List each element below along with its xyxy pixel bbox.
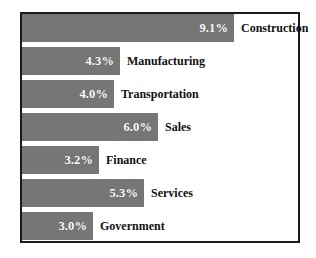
- bar-sales: 6.0%: [22, 113, 158, 141]
- bar-value-label: 3.0%: [58, 220, 87, 233]
- bar-row: 6.0%Sales: [22, 113, 191, 141]
- bar-value-label: 9.1%: [199, 22, 228, 35]
- bar-category-label: Transportation: [114, 88, 199, 100]
- chart-plot-area: 9.1%Construction4.3%Manufacturing4.0%Tra…: [22, 14, 298, 241]
- bar-manufacturing: 4.3%: [22, 47, 120, 75]
- bar-services: 5.3%: [22, 179, 144, 207]
- bar-value-label: 4.3%: [85, 55, 114, 68]
- chart-frame-border: 9.1%Construction4.3%Manufacturing4.0%Tra…: [20, 12, 300, 243]
- bar-category-label: Manufacturing: [120, 55, 205, 67]
- bar-category-label: Services: [144, 187, 193, 199]
- chart-figure: 9.1%Construction4.3%Manufacturing4.0%Tra…: [0, 0, 316, 258]
- bar-value-label: 4.0%: [79, 88, 108, 101]
- bar-row: 4.0%Transportation: [22, 80, 199, 108]
- bar-row: 3.2%Finance: [22, 146, 147, 174]
- bar-row: 3.0%Government: [22, 212, 165, 240]
- bar-government: 3.0%: [22, 212, 93, 240]
- bar-value-label: 3.2%: [64, 154, 93, 167]
- bar-category-label: Finance: [99, 154, 147, 166]
- bar-transportation: 4.0%: [22, 80, 114, 108]
- bar-category-label: Sales: [158, 121, 191, 133]
- bar-finance: 3.2%: [22, 146, 99, 174]
- bar-value-label: 6.0%: [123, 121, 152, 134]
- bar-construction: 9.1%: [22, 14, 234, 42]
- bar-row: 4.3%Manufacturing: [22, 47, 205, 75]
- bar-category-label: Construction: [234, 22, 308, 34]
- bar-row: 9.1%Construction: [22, 14, 308, 42]
- bar-value-label: 5.3%: [109, 187, 138, 200]
- bar-category-label: Government: [93, 220, 165, 232]
- bar-row: 5.3%Services: [22, 179, 193, 207]
